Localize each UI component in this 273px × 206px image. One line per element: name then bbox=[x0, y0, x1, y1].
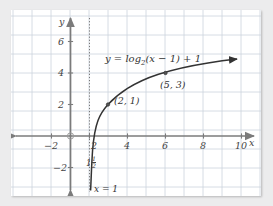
point-marker-5-3 bbox=[164, 71, 167, 74]
x-tick-label-4: 4 bbox=[124, 141, 130, 151]
y-axis-label: y bbox=[59, 17, 64, 27]
point-label-5-3: (5, 3) bbox=[160, 80, 186, 90]
y-tick-label--2: −2 bbox=[53, 163, 67, 173]
curve-equation-label: y = log2(x − 1) + 1 bbox=[105, 54, 201, 67]
x-tick-label--2: −2 bbox=[44, 141, 58, 151]
x-tick-label-6: 6 bbox=[162, 141, 168, 151]
figure-container: y x −2 2 4 6 8 10 6 4 2 −2 y = log2(x − … bbox=[0, 0, 273, 206]
asymptote-label: x = 1 bbox=[94, 185, 118, 194]
page-background-strip bbox=[0, 0, 11, 206]
x-tick-label-2: 2 bbox=[91, 141, 97, 151]
x-intercept-fraction: 12 bbox=[91, 156, 96, 170]
x-tick-label-8: 8 bbox=[200, 141, 206, 151]
equation-log: log bbox=[125, 53, 141, 64]
equation-argument: (x − 1) + 1 bbox=[145, 53, 201, 64]
point-label-2-1: (2, 1) bbox=[114, 96, 140, 106]
equation-equals: = bbox=[114, 53, 122, 64]
point-marker-2-1 bbox=[106, 103, 109, 106]
y-tick-label-6: 6 bbox=[58, 37, 64, 47]
y-tick-label-4: 4 bbox=[58, 68, 64, 78]
plot-panel: y x −2 2 4 6 8 10 6 4 2 −2 y = log2(x − … bbox=[11, 10, 261, 196]
x-axis-label: x bbox=[249, 138, 254, 148]
fraction-denominator: 2 bbox=[91, 163, 96, 169]
y-tick-label-2: 2 bbox=[58, 100, 64, 110]
x-tick-label-10: 10 bbox=[235, 141, 247, 151]
x-intercept-label: 112 bbox=[86, 156, 96, 170]
equation-y: y bbox=[105, 53, 111, 64]
